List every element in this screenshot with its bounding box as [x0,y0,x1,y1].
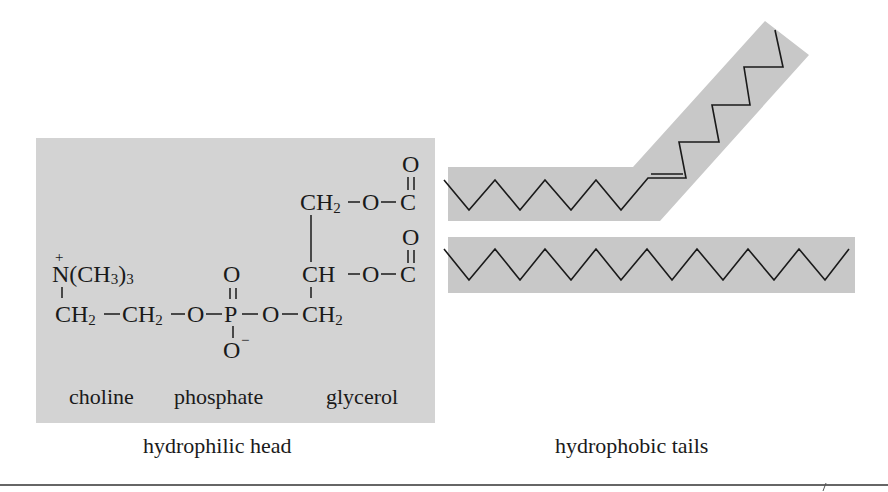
ammonium-group: N(CH3)3 [52,261,134,287]
tick-mark [823,483,826,491]
label-phosphate: phosphate [174,384,263,409]
ester-oxygen-2: O [262,301,279,327]
carbonyl-carbon-2: C [400,261,416,287]
carbonyl-oxygen-2: O [402,224,419,250]
phosphorus: P [224,301,237,327]
saturated-tail-band [448,237,855,293]
label-glycerol: glycerol [326,384,398,409]
phosphate-single-oxygen: O [223,337,240,363]
carbonyl-oxygen-1: O [402,151,419,177]
ester-oxygen-4: O [362,261,379,287]
ester-oxygen-1: O [187,301,204,327]
carbonyl-carbon-1: C [400,189,416,215]
phospholipid-diagram: + N(CH3)3 CH2 CH2 O P O CH2 O O − CH2 O … [0,0,888,492]
glycerol-ch: CH [302,261,335,287]
unsaturated-tail-band [448,21,809,221]
caption-hydrophobic-tails: hydrophobic tails [555,433,708,458]
caption-hydrophilic-head: hydrophilic head [143,433,291,458]
label-choline: choline [69,384,134,409]
ester-oxygen-3: O [362,189,379,215]
phosphate-charge: − [241,332,249,348]
phosphate-double-oxygen: O [223,261,240,287]
